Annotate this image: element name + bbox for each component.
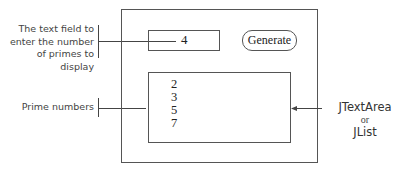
generate-button-label: Generate [248,33,291,48]
arrow-head-icon [291,105,297,112]
output-annotation: Prime numbers [0,101,94,114]
text-field-annotation-line-2: enter the number [0,36,94,49]
component-label-jlist: JList [325,125,404,139]
component-annotation: JTextArea or JList [325,100,404,139]
text-field-annotation: The text field to enter the number of pr… [0,23,94,73]
generate-button[interactable]: Generate [242,30,297,51]
prime-line: 7 [171,117,177,130]
text-field-annotation-line-1: The text field to [0,23,94,36]
prime-output-area[interactable] [148,72,291,143]
number-of-primes-value: 4 [181,32,188,48]
component-label-or: or [325,114,404,125]
text-field-annotation-line-3: of primes to display [0,48,94,73]
component-label-jtextarea: JTextArea [325,100,404,114]
component-arrow-line [294,108,322,109]
